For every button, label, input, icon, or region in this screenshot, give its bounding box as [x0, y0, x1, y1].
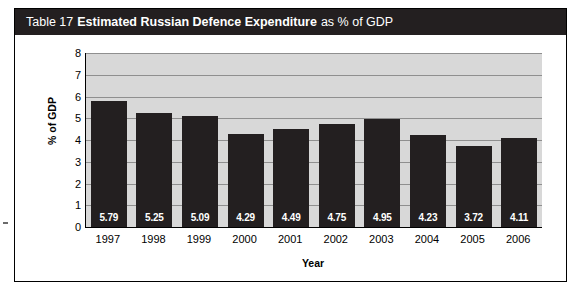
x-tick-label: 2003 — [363, 233, 399, 245]
y-tick: 3 — [59, 156, 81, 168]
x-tick-label: 1999 — [181, 233, 217, 245]
bar[interactable]: 5.25 — [136, 113, 172, 227]
y-tick: 8 — [59, 47, 81, 59]
bar[interactable]: 4.95 — [364, 119, 400, 227]
chart-title-table-number: Table 17 — [26, 15, 73, 29]
bar-value-label: 4.29 — [228, 212, 264, 223]
bar[interactable]: 5.09 — [182, 116, 218, 227]
x-tick-label: 2002 — [318, 233, 354, 245]
bar-group: 4.29 — [228, 53, 264, 227]
x-axis-labels: 1997 1998 1999 2000 2001 2002 2003 2004 … — [85, 233, 541, 245]
chart-title-bar: Table 17 Estimated Russian Defence Expen… — [15, 9, 566, 35]
bar[interactable]: 4.75 — [319, 124, 355, 227]
bar-value-label: 4.49 — [273, 212, 309, 223]
chart-title-main: Estimated Russian Defence Expenditure — [77, 15, 317, 29]
chart-title-suffix: as % of GDP — [321, 15, 393, 29]
bar-group: 4.95 — [364, 53, 400, 227]
chart-page: Table 17 Estimated Russian Defence Expen… — [0, 0, 586, 295]
bar-value-label: 5.09 — [182, 212, 218, 223]
bar-group: 4.23 — [410, 53, 446, 227]
y-axis-ticks: 8 7 6 5 4 3 2 1 0 — [59, 53, 81, 227]
bar-value-label: 4.23 — [410, 212, 446, 223]
bar[interactable]: 4.11 — [501, 138, 537, 227]
bar-value-label: 5.79 — [91, 212, 127, 223]
plot-area: 5.79 5.25 5.09 4.29 — [85, 53, 542, 228]
y-tick: 5 — [59, 112, 81, 124]
y-tick: 7 — [59, 69, 81, 81]
bar-group: 5.79 — [91, 53, 127, 227]
bar[interactable]: 4.49 — [273, 129, 309, 227]
x-tick-label: 2006 — [500, 233, 536, 245]
x-tick-label: 2005 — [455, 233, 491, 245]
bar-value-label: 5.25 — [136, 212, 172, 223]
chart-figure: Table 17 Estimated Russian Defence Expen… — [14, 8, 567, 282]
bar-group: 4.49 — [273, 53, 309, 227]
y-axis-title: % of GDP — [46, 76, 58, 166]
bar-value-label: 3.72 — [456, 212, 492, 223]
bar-group: 5.09 — [182, 53, 218, 227]
x-tick-label: 1997 — [90, 233, 126, 245]
x-axis-title: Year — [85, 257, 541, 269]
bar[interactable]: 5.79 — [91, 101, 127, 227]
x-tick-label: 1998 — [135, 233, 171, 245]
bar-group: 4.11 — [501, 53, 537, 227]
x-tick-label: 2004 — [409, 233, 445, 245]
stray-mark — [3, 222, 8, 224]
bar-series: 5.79 5.25 5.09 4.29 — [86, 53, 542, 227]
y-tick: 4 — [59, 134, 81, 146]
y-tick: 1 — [59, 199, 81, 211]
bar-group: 4.75 — [319, 53, 355, 227]
bar-group: 5.25 — [136, 53, 172, 227]
x-tick-label: 2000 — [227, 233, 263, 245]
y-tick: 2 — [59, 178, 81, 190]
x-tick-label: 2001 — [272, 233, 308, 245]
bar-group: 3.72 — [456, 53, 492, 227]
y-tick: 6 — [59, 91, 81, 103]
bar-value-label: 4.11 — [501, 212, 537, 223]
bar[interactable]: 4.29 — [228, 134, 264, 227]
y-tick: 0 — [59, 221, 81, 233]
bar-value-label: 4.95 — [364, 212, 400, 223]
bar[interactable]: 4.23 — [410, 135, 446, 227]
bar[interactable]: 3.72 — [456, 146, 492, 227]
bar-value-label: 4.75 — [319, 212, 355, 223]
